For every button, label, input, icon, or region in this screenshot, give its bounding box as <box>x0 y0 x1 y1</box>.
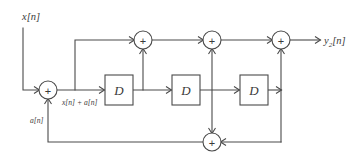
adder-input-node[interactable]: + <box>39 81 57 99</box>
block-diagram-canvas: D D D + + + <box>0 0 363 160</box>
adder-bottom-node[interactable]: + <box>203 133 221 151</box>
adder-bottom-plus: + <box>209 137 215 149</box>
adder-output-label: x[n] + a[n] <box>61 98 98 107</box>
delay-2-label: D <box>180 83 191 98</box>
output-signal-suffix: [n] <box>332 35 345 46</box>
delay-blocks: D D D <box>105 75 268 105</box>
adder-top-3-node[interactable]: + <box>272 31 290 49</box>
signal-labels: x[n] y2[n] x[n] + a[n] a[n] <box>21 11 346 125</box>
delay-block-2[interactable]: D <box>172 75 200 105</box>
delay-block-1[interactable]: D <box>105 75 133 105</box>
delay-3-label: D <box>248 83 259 98</box>
adder-top-2-plus: + <box>209 35 215 47</box>
adder-top-1-node[interactable]: + <box>134 31 152 49</box>
signal-flow-diagram: D D D + + + <box>0 0 363 160</box>
wire-input-to-adder <box>23 28 39 90</box>
adder-top-3-plus: + <box>278 35 284 47</box>
delay-block-3[interactable]: D <box>240 75 268 105</box>
adder-input-plus: + <box>45 85 51 97</box>
feedback-signal-label: a[n] <box>30 116 44 125</box>
input-signal-label: x[n] <box>21 11 40 22</box>
output-signal-label: y2[n] <box>323 35 346 49</box>
delay-1-label: D <box>113 83 124 98</box>
adder-top-2-node[interactable]: + <box>203 31 221 49</box>
adder-top-1-plus: + <box>140 35 146 47</box>
